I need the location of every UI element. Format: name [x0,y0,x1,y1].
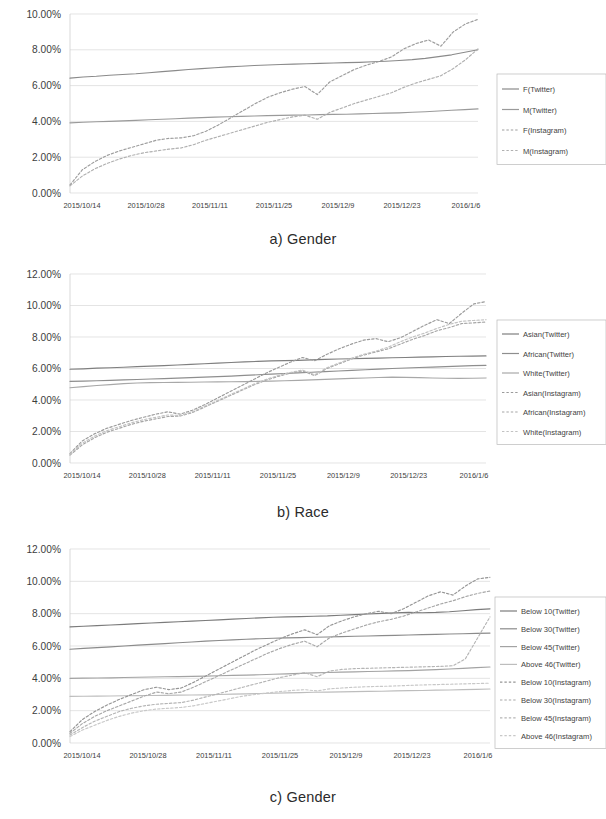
legend-label[interactable]: F(Instagram) [523,126,567,135]
legend-label[interactable]: Below 10(Twitter) [521,607,580,616]
legend-label[interactable]: Above 46(Twitter) [521,660,581,669]
series-line [70,609,490,627]
y-axis-tick-label: 6.00% [32,80,61,91]
series-line [70,377,486,388]
legend-label[interactable]: Asian(Twitter) [523,330,570,339]
y-axis-tick-label: 0.00% [32,738,61,749]
chart-figure-age: 0.00%2.00%4.00%6.00%8.00%10.00%12.00%201… [0,535,606,819]
y-axis-tick-label: 8.00% [32,608,61,619]
legend-label[interactable]: White(Instagram) [523,428,582,437]
legend-label[interactable]: White(Twitter) [523,369,570,378]
legend-label[interactable]: F(Twitter) [523,85,556,94]
y-axis-tick-label: 10.00% [26,9,61,20]
series-line [70,49,478,186]
x-axis-tick-label: 2015/12/9 [330,751,363,760]
x-axis-tick-label: 2015/11/25 [262,751,298,760]
x-axis-tick-label: 2015/11/11 [195,471,231,480]
legend-label[interactable]: African(Instagram) [523,408,586,417]
x-axis-tick-label: 2015/12/23 [390,471,427,480]
y-axis-tick-label: 0.00% [32,458,61,469]
chart-caption-gender: a) Gender [0,231,606,247]
figure-page: 0.00%2.00%4.00%6.00%8.00%10.00%2015/10/1… [0,0,606,819]
series-line [70,577,490,731]
y-axis-tick-label: 12.00% [26,269,61,280]
line-chart-gender: 0.00%2.00%4.00%6.00%8.00%10.00%2015/10/1… [0,0,606,235]
x-axis-tick-label: 2015/12/9 [322,201,355,210]
series-line [70,50,478,78]
y-axis-tick-label: 6.00% [32,641,61,652]
line-chart-race: 0.00%2.00%4.00%6.00%8.00%10.00%12.00%201… [0,260,606,510]
y-axis-tick-label: 4.00% [32,673,61,684]
x-axis-tick-label: 2015/10/14 [64,201,101,210]
line-chart-age: 0.00%2.00%4.00%6.00%8.00%10.00%12.00%201… [0,535,606,793]
x-axis-tick-label: 2015/12/9 [327,471,360,480]
legend-label[interactable]: Below 45(Instagram) [521,714,592,723]
x-axis-tick-label: 2016/1/6 [460,471,489,480]
legend-label[interactable]: Below 10(Instagram) [521,678,592,687]
x-axis-tick-label: 2016/1/6 [452,201,481,210]
y-axis-tick-label: 6.00% [32,363,61,374]
x-axis-tick-label: 2015/11/25 [256,201,292,210]
x-axis-tick-label: 2015/11/25 [260,471,296,480]
x-axis-tick-label: 2015/11/11 [192,201,228,210]
series-line [70,322,486,455]
x-axis-tick-label: 2015/12/23 [394,751,431,760]
x-axis-tick-label: 2015/10/28 [129,471,166,480]
x-axis-tick-label: 2015/10/28 [130,751,167,760]
series-line [70,633,490,649]
y-axis-tick-label: 10.00% [26,300,61,311]
x-axis-tick-label: 2015/10/28 [128,201,165,210]
y-axis-tick-label: 8.00% [32,332,61,343]
y-axis-tick-label: 4.00% [32,395,61,406]
x-axis-tick-label: 2015/10/14 [64,471,101,480]
series-line [70,667,490,678]
y-axis-tick-label: 10.00% [26,576,61,587]
series-line [70,683,490,736]
legend-label[interactable]: Below 30(Instagram) [521,696,592,705]
y-axis-tick-label: 2.00% [32,152,61,163]
x-axis-tick-label: 2015/10/14 [64,751,101,760]
chart-caption-age: c) Gender [0,789,606,805]
chart-figure-race: 0.00%2.00%4.00%6.00%8.00%10.00%12.00%201… [0,260,606,535]
y-axis-tick-label: 8.00% [32,44,61,55]
series-line [70,320,486,455]
legend-label[interactable]: Below 30(Twitter) [521,625,580,634]
x-axis-tick-label: 2015/11/11 [196,751,232,760]
legend-label[interactable]: M(Instagram) [523,147,569,156]
legend-box [495,597,606,749]
chart-figure-gender: 0.00%2.00%4.00%6.00%8.00%10.00%2015/10/1… [0,0,606,260]
chart-caption-race: b) Race [0,504,606,520]
y-axis-tick-label: 2.00% [32,705,61,716]
y-axis-tick-label: 12.00% [26,544,61,555]
legend-label[interactable]: Below 45(Twitter) [521,643,580,652]
series-line [70,689,490,696]
x-axis-tick-label: 2015/12/23 [384,201,421,210]
series-line [70,19,478,185]
x-axis-tick-label: 2016/1/6 [464,751,493,760]
legend-label[interactable]: African(Twitter) [523,350,575,359]
y-axis-tick-label: 4.00% [32,116,61,127]
legend-label[interactable]: Asian(Instagram) [523,389,581,398]
y-axis-tick-label: 2.00% [32,426,61,437]
legend-label[interactable]: M(Twitter) [523,106,557,115]
legend-label[interactable]: Above 46(Instagram) [521,732,592,741]
y-axis-tick-label: 0.00% [32,188,61,199]
